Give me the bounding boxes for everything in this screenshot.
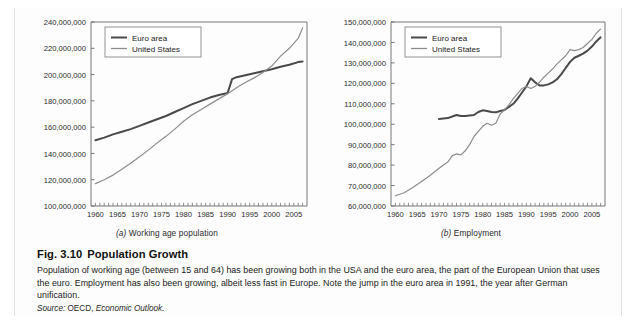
y-tick-label: 160,000,000 <box>44 123 86 132</box>
y-tick-label: 100,000,000 <box>344 120 386 129</box>
y-tick-label: 120,000,000 <box>344 79 386 88</box>
y-tick-label: 140,000,000 <box>344 39 386 48</box>
y-tick-label: 130,000,000 <box>344 59 386 68</box>
line-chart-working-age-population: 100,000,000120,000,000140,000,000160,000… <box>15 8 319 240</box>
x-tick-label: 1995 <box>241 210 258 219</box>
panel-a-index: (a) <box>116 228 126 238</box>
y-tick-label: 110,000,000 <box>344 100 386 109</box>
y-tick-label: 240,000,000 <box>44 18 86 27</box>
y-tick-label: 60,000,000 <box>348 202 386 211</box>
x-tick-label: 2005 <box>583 210 600 219</box>
x-tick-label: 1970 <box>431 210 448 219</box>
panel-b-index: (b) <box>441 228 451 238</box>
x-tick-label: 1965 <box>409 210 426 219</box>
y-tick-label: 150,000,000 <box>344 18 386 27</box>
legend-label-euro-area: Euro area <box>432 34 468 43</box>
panel-b-label: Employment <box>454 228 501 238</box>
legend-label-euro-area: Euro area <box>132 34 168 43</box>
x-tick-label: 1985 <box>496 210 513 219</box>
series-line-euro-area <box>95 61 302 140</box>
x-tick-label: 1975 <box>153 210 170 219</box>
figure-source: Source: OECD, Economic Outlook. <box>37 304 603 313</box>
y-tick-label: 200,000,000 <box>44 71 86 80</box>
panel-b-caption: (b) Employment <box>319 228 623 238</box>
x-tick-label: 2000 <box>263 210 280 219</box>
figure-block: 100,000,000120,000,000140,000,000160,000… <box>14 8 622 316</box>
y-tick-label: 80,000,000 <box>348 161 386 170</box>
line-chart-employment: 60,000,00070,000,00080,000,00090,000,000… <box>319 8 623 240</box>
figure-body-text: Population of working age (between 15 an… <box>37 264 603 302</box>
chart-panel-employment: 60,000,00070,000,00080,000,00090,000,000… <box>319 8 623 240</box>
source-organization: OECD, <box>68 304 94 313</box>
y-tick-label: 120,000,000 <box>44 176 86 185</box>
chart-panel-working-age-population: 100,000,000120,000,000140,000,000160,000… <box>15 8 319 240</box>
legend-label-united-states: United States <box>432 45 480 54</box>
figure-number: Fig. 3.10 <box>37 248 82 260</box>
y-tick-label: 90,000,000 <box>348 141 386 150</box>
source-publication: Economic Outlook. <box>96 304 165 313</box>
charts-row: 100,000,000120,000,000140,000,000160,000… <box>15 8 623 240</box>
x-tick-label: 1990 <box>219 210 236 219</box>
x-tick-label: 1990 <box>518 210 535 219</box>
x-tick-label: 1960 <box>87 210 104 219</box>
x-tick-label: 1985 <box>197 210 214 219</box>
panel-a-caption: (a) Working age population <box>15 228 319 238</box>
x-tick-label: 2005 <box>285 210 302 219</box>
figure-title: Population Growth <box>87 248 188 260</box>
y-tick-label: 100,000,000 <box>44 202 86 211</box>
x-tick-label: 2000 <box>562 210 579 219</box>
x-tick-label: 1965 <box>109 210 126 219</box>
x-tick-label: 1975 <box>452 210 469 219</box>
source-label: Source: <box>37 304 65 313</box>
figure-caption: Fig. 3.10Population Growth Population of… <box>37 248 603 313</box>
y-tick-label: 70,000,000 <box>348 182 386 191</box>
y-tick-label: 180,000,000 <box>44 97 86 106</box>
panel-a-label: Working age population <box>129 228 218 238</box>
x-tick-label: 1980 <box>175 210 192 219</box>
y-tick-label: 220,000,000 <box>44 44 86 53</box>
y-tick-label: 140,000,000 <box>44 150 86 159</box>
x-tick-label: 1995 <box>540 210 557 219</box>
x-tick-label: 1970 <box>131 210 148 219</box>
legend-label-united-states: United States <box>132 45 180 54</box>
x-tick-label: 1980 <box>474 210 491 219</box>
x-tick-label: 1960 <box>387 210 404 219</box>
figure-title-line: Fig. 3.10Population Growth <box>37 248 603 260</box>
